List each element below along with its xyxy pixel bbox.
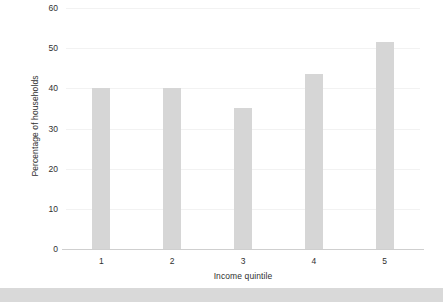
plot-area: [66, 8, 420, 249]
x-tick-label: 1: [81, 256, 121, 266]
y-tick-label: 40: [36, 83, 58, 93]
x-tick-label: 2: [152, 256, 192, 266]
bar: [92, 88, 110, 249]
bar: [305, 74, 323, 249]
y-axis-tick-labels: 0102030405060: [34, 0, 58, 260]
x-tick-label: 5: [365, 256, 405, 266]
x-axis-title: Income quintile: [66, 271, 420, 281]
x-tick-label: 3: [223, 256, 263, 266]
y-tick-label: 30: [36, 124, 58, 134]
bar-chart-figure: Percentage of households 0102030405060 1…: [0, 0, 443, 286]
y-tick-label: 60: [36, 3, 58, 13]
bar: [163, 88, 181, 249]
bar: [234, 108, 252, 249]
bottom-band: [0, 288, 443, 302]
y-tick-label: 20: [36, 164, 58, 174]
gridline: [66, 48, 420, 49]
x-tick-label: 4: [294, 256, 334, 266]
gridline: [66, 8, 420, 9]
y-tick-label: 10: [36, 204, 58, 214]
bar: [376, 42, 394, 249]
y-tick-label: 0: [36, 244, 58, 254]
gridline: [66, 88, 420, 89]
x-axis-line: [62, 249, 424, 250]
y-tick-label: 50: [36, 43, 58, 53]
